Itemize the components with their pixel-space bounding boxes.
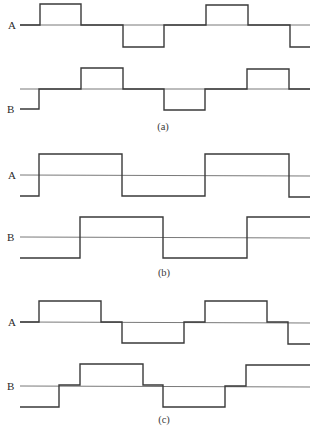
panel-c: A B (c) [7, 301, 310, 426]
signal-a-waveform [20, 4, 310, 47]
signal-b-label: B [7, 380, 14, 392]
signal-a-label: A [8, 169, 16, 181]
panel-caption: (c) [158, 414, 170, 426]
signal-b-label: B [7, 231, 14, 243]
panel-a: A B (a) [7, 4, 310, 133]
signal-b-axis [20, 237, 310, 238]
panel-b: A B (b) [7, 154, 310, 279]
signal-a-label: A [8, 19, 16, 31]
panel-caption: (b) [158, 267, 171, 279]
waveform-figure: A B (a) A B (b) A B (c) [0, 0, 319, 434]
signal-b-axis [20, 386, 310, 387]
signal-b-label: B [7, 103, 14, 115]
panel-caption: (a) [157, 121, 169, 133]
signal-a-label: A [8, 316, 16, 328]
signal-b-waveform [20, 364, 310, 407]
signal-a-axis [20, 175, 310, 176]
